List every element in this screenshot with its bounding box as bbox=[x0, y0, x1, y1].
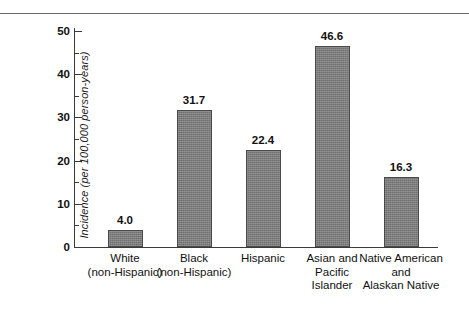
bar-black-non-hispanic bbox=[177, 110, 212, 247]
bar-value-native-american-and-alaskan-native: 16.3 bbox=[371, 161, 431, 173]
x-category-line: (non-Hispanic) bbox=[142, 266, 246, 280]
y-tick-minor-35 bbox=[75, 96, 79, 97]
bar-hispanic bbox=[246, 150, 281, 247]
bar-native-american-and-alaskan-native bbox=[384, 177, 419, 247]
y-tick-major-20 bbox=[75, 161, 82, 162]
y-tick-minor-5 bbox=[75, 225, 79, 226]
y-tick-minor-45 bbox=[75, 53, 79, 54]
x-category-line: and bbox=[349, 266, 453, 280]
y-axis-label: Incidence (per 100,000 person-years) bbox=[78, 30, 90, 260]
y-tick-label-20: 20 bbox=[44, 155, 70, 167]
y-tick-minor-25 bbox=[75, 139, 79, 140]
header-divider bbox=[0, 13, 469, 14]
bar-value-black-non-hispanic: 31.7 bbox=[164, 94, 224, 106]
y-tick-major-0 bbox=[75, 247, 82, 248]
bar-chart-figure: Incidence (per 100,000 person-years) 0 1… bbox=[0, 0, 469, 309]
y-tick-major-50 bbox=[75, 31, 82, 32]
y-tick-label-40: 40 bbox=[44, 68, 70, 80]
y-tick-label-30: 30 bbox=[44, 111, 70, 123]
x-category-line: Native American bbox=[349, 252, 453, 266]
y-tick-major-30 bbox=[75, 117, 82, 118]
bar-value-white-non-hispanic: 4.0 bbox=[95, 214, 155, 226]
y-tick-label-50: 50 bbox=[44, 25, 70, 37]
bar-asian-and-pacific-islander bbox=[315, 46, 350, 247]
y-tick-label-0: 0 bbox=[44, 241, 70, 253]
y-tick-minor-15 bbox=[75, 182, 79, 183]
y-tick-label-10: 10 bbox=[44, 198, 70, 210]
bar-white-non-hispanic bbox=[108, 230, 143, 247]
y-axis-line bbox=[74, 28, 75, 248]
bar-value-asian-and-pacific-islander: 46.6 bbox=[302, 30, 362, 42]
x-axis-line bbox=[74, 247, 438, 248]
x-category-label-native-american-and-alaskan-native: Native American and Alaskan Native bbox=[349, 252, 453, 293]
bar-value-hispanic: 22.4 bbox=[233, 134, 293, 146]
x-category-line: Alaskan Native bbox=[349, 279, 453, 293]
y-tick-major-10 bbox=[75, 204, 82, 205]
y-tick-major-40 bbox=[75, 74, 82, 75]
